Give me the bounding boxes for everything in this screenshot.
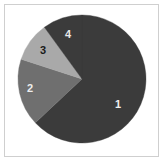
pie-slice-label-2: 2 xyxy=(27,83,33,94)
pie-slices-group xyxy=(18,15,146,143)
pie-svg xyxy=(0,0,163,161)
pie-slice-label-4: 4 xyxy=(65,29,71,40)
pie-chart-figure: 1234 xyxy=(0,0,163,161)
pie-slice-label-1: 1 xyxy=(115,99,121,110)
pie-slice-label-3: 3 xyxy=(40,45,46,56)
pie-plot-area: 1234 xyxy=(0,0,163,161)
